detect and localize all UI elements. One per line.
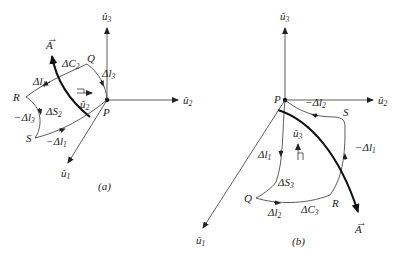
label-curve-dc2: ΔC2 [61,57,80,71]
label-p-a: P [102,106,110,118]
panel-a: û3 û2 û1 A → Q R S P ΔC2 ΔS2 Δl3 Δl1 −Δl… [12,10,193,193]
vector-arrow-icon: → [356,216,367,228]
label-mdl3-a: −Δl3 [14,111,35,125]
label-curve-dc3: ΔC3 [300,203,319,217]
arrow-icon [274,203,278,204]
label-u3-a: û3 [102,10,112,24]
right-angle-icon [77,89,84,93]
arrow-icon [101,80,103,84]
panel-b: û3 û2 û1 A → Q R S P ΔC3 ΔS3 Δl1 Δl2 −Δl… [196,10,388,248]
label-dl1-a: Δl1 [32,75,46,89]
label-u3-b: û3 [280,10,290,24]
label-u2-a: û2 [183,94,193,108]
arrow-icon [40,108,41,112]
label-mdl1-a: −Δl1 [46,135,67,149]
label-u2-b: û2 [378,94,388,108]
label-u1-a: û1 [61,167,70,181]
label-r-b: R [331,197,339,209]
label-normal-u2-a: û2 [80,98,90,112]
label-surface-ds3: ΔS3 [277,176,294,190]
label-s-b: S [343,106,349,118]
caption-a: (a) [98,180,111,193]
label-normal-u3-b: û3 [293,127,303,141]
label-mdl2-b: −Δl2 [305,96,326,110]
label-dl3-a: Δl3 [101,67,116,81]
label-r-a: R [12,91,20,103]
label-surface-ds2: ΔS2 [45,105,62,119]
diagram-canvas: û3 û2 û1 A → Q R S P ΔC2 ΔS2 Δl3 Δl1 −Δl… [0,0,398,261]
label-dl2-b: Δl2 [267,206,282,220]
right-angle-icon [298,153,303,160]
label-q-a: Q [87,52,95,64]
label-mdl1-b: −Δl1 [355,141,376,155]
vector-arrow-icon: → [47,32,58,44]
label-q-b: Q [244,192,252,204]
segment-dl2-b [256,195,330,203]
label-p-b: P [273,93,281,105]
label-dl1-b: Δl1 [257,148,271,162]
caption-b: (b) [292,235,305,248]
label-s-a: S [26,132,32,144]
label-u1-b: û1 [196,234,205,248]
vector-a-b [278,110,358,212]
